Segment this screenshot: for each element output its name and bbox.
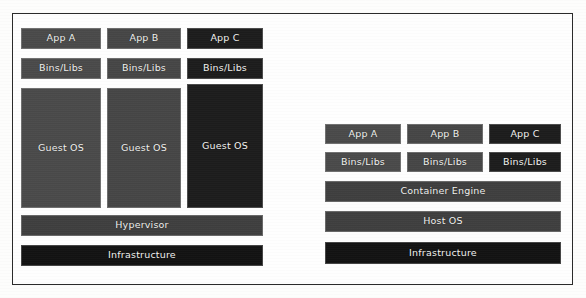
vm-app-b-label: App B (129, 33, 158, 43)
container-app-a-label: App A (348, 129, 377, 139)
vm-hypervisor-bar: Hypervisor (21, 215, 263, 236)
container-host-os-label: Host OS (423, 216, 463, 226)
vm-bins-b-label: Bins/Libs (122, 63, 166, 73)
vm-bins-c-label: Bins/Libs (203, 63, 247, 73)
container-app-b-box: App B (407, 124, 483, 144)
diagram-canvas: App A App B App C Bins/Libs Bins/Libs Bi… (0, 0, 586, 298)
container-bins-a-label: Bins/Libs (341, 157, 385, 167)
container-bins-c-box: Bins/Libs (489, 152, 561, 172)
container-bins-c-label: Bins/Libs (503, 157, 547, 167)
diagram-frame: App A App B App C Bins/Libs Bins/Libs Bi… (12, 13, 573, 285)
vm-bins-a-label: Bins/Libs (39, 63, 83, 73)
vm-app-a-box: App A (21, 28, 101, 49)
vm-app-c-label: App C (210, 33, 239, 43)
vm-bins-b-box: Bins/Libs (107, 58, 181, 79)
container-engine-label: Container Engine (400, 186, 485, 196)
container-app-a-box: App A (325, 124, 401, 144)
vm-app-c-box: App C (187, 28, 263, 49)
vm-app-b-box: App B (107, 28, 181, 49)
vm-guest-os-c-label: Guest OS (202, 141, 248, 151)
vm-bins-c-box: Bins/Libs (187, 58, 263, 79)
vm-guest-os-a-label: Guest OS (38, 143, 84, 153)
container-infrastructure-bar: Infrastructure (325, 242, 561, 264)
container-engine-bar: Container Engine (325, 181, 561, 202)
vm-infrastructure-label: Infrastructure (108, 250, 176, 260)
vm-guest-os-b-label: Guest OS (121, 143, 167, 153)
container-app-b-label: App B (430, 129, 459, 139)
vm-app-a-label: App A (46, 33, 75, 43)
container-host-os-bar: Host OS (325, 211, 561, 232)
vm-bins-a-box: Bins/Libs (21, 58, 101, 79)
container-app-c-label: App C (510, 129, 539, 139)
vm-hypervisor-label: Hypervisor (115, 220, 168, 230)
container-app-c-box: App C (489, 124, 561, 144)
vm-infrastructure-bar: Infrastructure (21, 245, 263, 266)
container-infrastructure-label: Infrastructure (409, 248, 477, 258)
container-bins-b-label: Bins/Libs (423, 157, 467, 167)
vm-guest-os-a-box: Guest OS (21, 88, 101, 208)
vm-guest-os-c-box: Guest OS (187, 84, 263, 208)
container-bins-a-box: Bins/Libs (325, 152, 401, 172)
container-bins-b-box: Bins/Libs (407, 152, 483, 172)
vm-guest-os-b-box: Guest OS (107, 88, 181, 208)
